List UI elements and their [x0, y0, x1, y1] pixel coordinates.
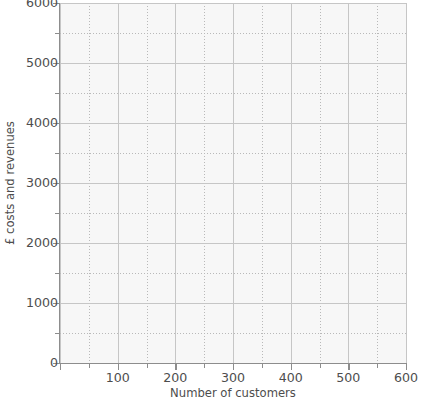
gridline-vertical-minor [147, 3, 148, 363]
x-axis-tick-label: 600 [381, 372, 422, 385]
x-axis-tick [406, 363, 407, 370]
gridline-vertical-major [233, 3, 234, 363]
x-axis-tick [262, 363, 263, 368]
gridline-horizontal-minor [60, 93, 406, 94]
gridline-horizontal-minor [60, 333, 406, 334]
grid-lines [60, 3, 406, 363]
plot-area [60, 3, 406, 363]
gridline-horizontal-minor [60, 153, 406, 154]
x-axis-tick [204, 363, 205, 368]
gridline-vertical-minor [204, 3, 205, 363]
gridline-horizontal-minor [60, 33, 406, 34]
gridline-horizontal-major [60, 183, 406, 184]
y-axis-tick [55, 153, 60, 154]
gridline-horizontal-major [60, 3, 406, 4]
x-axis-tick-label: 500 [323, 372, 373, 385]
gridline-vertical-major [348, 3, 349, 363]
gridline-vertical-minor [262, 3, 263, 363]
gridline-vertical-minor [377, 3, 378, 363]
y-axis-tick [55, 33, 60, 34]
gridline-vertical-major [118, 3, 119, 363]
y-axis-tick [55, 333, 60, 334]
y-axis-tick [55, 93, 60, 94]
x-axis-tick-label: 100 [93, 372, 143, 385]
gridline-vertical-major [291, 3, 292, 363]
x-axis-tick [175, 363, 176, 370]
x-axis-tick [320, 363, 321, 368]
x-axis-tick [348, 363, 349, 370]
gridline-horizontal-major [60, 243, 406, 244]
x-axis-tick [118, 363, 119, 370]
gridline-horizontal-minor [60, 213, 406, 214]
gridline-horizontal-major [60, 303, 406, 304]
y-axis-tick [55, 213, 60, 214]
gridline-vertical-minor [320, 3, 321, 363]
y-axis-title: £ costs and revenues [2, 3, 18, 363]
gridline-horizontal-minor [60, 273, 406, 274]
x-axis-tick-label: 200 [150, 372, 200, 385]
x-axis-tick [60, 363, 61, 370]
x-axis-tick [89, 363, 90, 368]
x-axis-tick [147, 363, 148, 368]
x-axis-tick [291, 363, 292, 370]
x-axis-title: Number of customers [60, 388, 406, 400]
gridline-vertical-major [406, 3, 407, 363]
x-axis-tick-label: 400 [266, 372, 316, 385]
gridline-horizontal-major [60, 123, 406, 124]
gridline-horizontal-major [60, 63, 406, 64]
x-axis-tick [233, 363, 234, 370]
gridline-vertical-minor [89, 3, 90, 363]
y-axis-tick [55, 273, 60, 274]
x-axis-tick-label: 300 [208, 372, 258, 385]
gridline-vertical-major [175, 3, 176, 363]
x-axis-tick [377, 363, 378, 368]
